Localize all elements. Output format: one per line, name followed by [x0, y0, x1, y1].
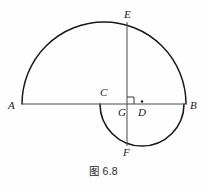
point-label-g: G — [118, 107, 126, 118]
point-label-d: D — [138, 107, 146, 118]
geometry-drawing — [0, 0, 207, 163]
point-label-c: C — [100, 87, 107, 98]
figure-caption: 图 6.8 — [0, 163, 207, 178]
point-label-e: E — [124, 9, 131, 20]
right-angle-marker-icon — [127, 97, 134, 104]
point-label-b: B — [190, 100, 197, 111]
point-label-a: A — [8, 100, 15, 111]
point-label-f: F — [123, 147, 130, 158]
figure-container: A B C D E F G 图 6.8 — [0, 0, 207, 189]
point-d-dot — [141, 100, 143, 102]
